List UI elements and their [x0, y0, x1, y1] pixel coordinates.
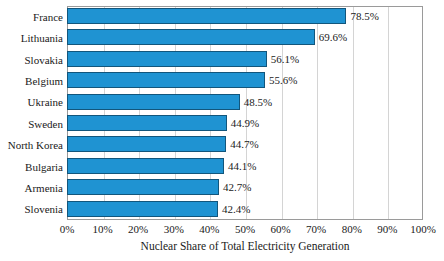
bar: [67, 179, 219, 195]
x-tick-label: 60%: [271, 222, 291, 236]
x-tick-label: 20%: [128, 222, 148, 236]
category-label: Belgium: [0, 71, 63, 91]
bar: [67, 136, 226, 152]
bar-row: 44.7%: [67, 134, 423, 155]
category-label: Armenia: [0, 178, 63, 198]
bar-value-label: 48.5%: [244, 93, 272, 111]
bar-row: 44.9%: [67, 113, 423, 134]
bar: [67, 94, 240, 110]
bar: [67, 158, 224, 174]
x-tick-label: 90%: [377, 222, 397, 236]
bar-row: 69.6%: [67, 27, 423, 48]
category-label: Lithuania: [0, 28, 63, 48]
category-label: Ukraine: [0, 92, 63, 112]
category-label: Slovenia: [0, 199, 63, 219]
x-axis-title: Nuclear Share of Total Electricity Gener…: [67, 240, 423, 252]
x-tick-label: 50%: [235, 222, 255, 236]
x-axis-tick-labels: 0%10%20%30%40%50%60%70%80%90%100%: [67, 222, 423, 238]
bar-value-label: 44.1%: [228, 157, 256, 175]
bar-row: 55.6%: [67, 70, 423, 91]
x-tick-label: 0%: [60, 222, 75, 236]
bar: [67, 72, 265, 88]
x-tick-label: 80%: [342, 222, 362, 236]
bar-chart: FranceLithuaniaSlovakiaBelgiumUkraineSwe…: [0, 0, 444, 261]
bar-value-label: 78.5%: [350, 7, 378, 25]
category-label: France: [0, 7, 63, 27]
x-tick-label: 30%: [164, 222, 184, 236]
bar: [67, 201, 218, 217]
bar: [67, 29, 315, 45]
bar: [67, 51, 267, 67]
bar-row: 44.1%: [67, 156, 423, 177]
x-tick-label: 100%: [410, 222, 436, 236]
bar: [67, 8, 346, 24]
category-label: North Korea: [0, 135, 63, 155]
bar-value-label: 42.4%: [222, 200, 250, 218]
bar-series: 78.5%69.6%56.1%55.6%48.5%44.9%44.7%44.1%…: [67, 6, 423, 220]
bar-value-label: 44.7%: [230, 135, 258, 153]
bar-value-label: 55.6%: [269, 71, 297, 89]
bar-row: 56.1%: [67, 49, 423, 70]
x-tick-label: 40%: [199, 222, 219, 236]
bar-value-label: 69.6%: [319, 28, 347, 46]
bar-value-label: 44.9%: [231, 114, 259, 132]
category-axis-labels: FranceLithuaniaSlovakiaBelgiumUkraineSwe…: [0, 6, 63, 220]
x-tick-label: 70%: [306, 222, 326, 236]
category-label: Slovakia: [0, 50, 63, 70]
bar-row: 42.4%: [67, 199, 423, 220]
bar-row: 78.5%: [67, 6, 423, 27]
category-label: Sweden: [0, 114, 63, 134]
bar-value-label: 42.7%: [223, 178, 251, 196]
bar-value-label: 56.1%: [271, 50, 299, 68]
bar: [67, 115, 227, 131]
category-label: Bulgaria: [0, 157, 63, 177]
bar-row: 42.7%: [67, 177, 423, 198]
bar-row: 48.5%: [67, 92, 423, 113]
x-tick-label: 10%: [93, 222, 113, 236]
